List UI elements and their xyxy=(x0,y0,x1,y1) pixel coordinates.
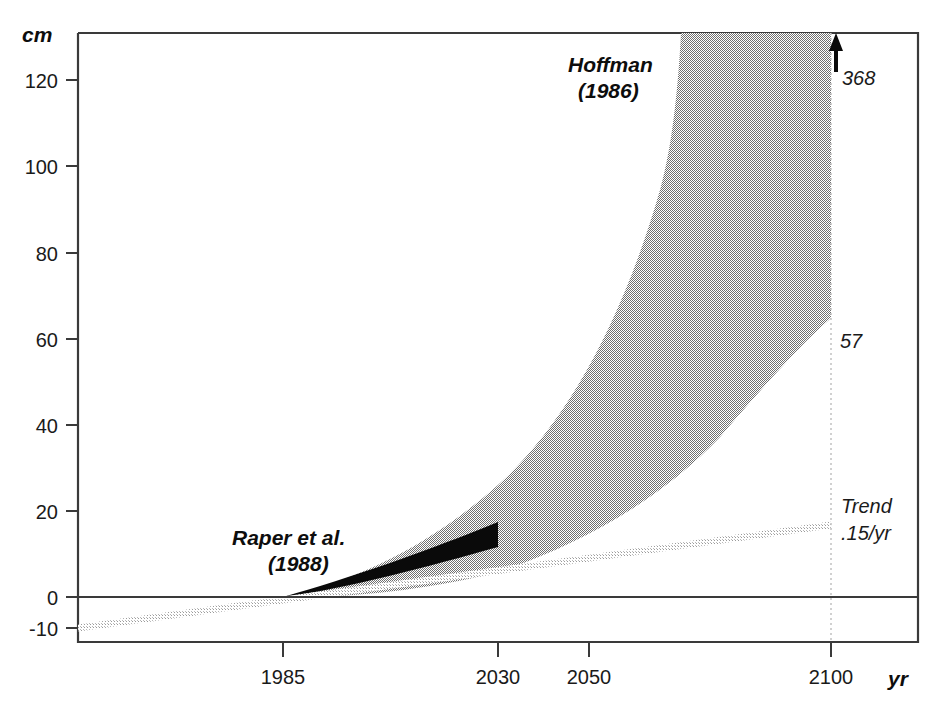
y-tick-label-neg10: -10 xyxy=(29,618,58,640)
hoffman-label-line1: Hoffman xyxy=(568,53,653,76)
y-tick-label-60: 60 xyxy=(36,329,58,351)
y-tick-label-80: 80 xyxy=(36,243,58,265)
sea-level-projection-chart: 120 100 80 60 40 20 0 -10 cm 1985 2030 2… xyxy=(0,0,940,707)
raper-label-line1: Raper et al. xyxy=(232,526,345,549)
x-axis-unit-label: yr xyxy=(887,667,910,690)
x-tick-label-2050: 2050 xyxy=(567,666,612,688)
hoffman-label-line2: (1986) xyxy=(578,79,639,102)
raper-label-line2: (1988) xyxy=(268,552,329,575)
endpoint-low-label: 57 xyxy=(840,330,863,352)
trend-label-line2: .15/yr xyxy=(841,522,892,544)
y-tick-label-120: 120 xyxy=(25,70,58,92)
x-tick-label-1985: 1985 xyxy=(261,666,306,688)
y-tick-label-100: 100 xyxy=(25,156,58,178)
y-tick-label-40: 40 xyxy=(36,415,58,437)
y-axis-unit-label: cm xyxy=(22,23,52,46)
endpoint-high-label: 368 xyxy=(842,67,875,89)
trend-label-line1: Trend xyxy=(841,495,893,517)
y-tick-label-0: 0 xyxy=(47,587,58,609)
x-tick-label-2030: 2030 xyxy=(476,666,521,688)
y-tick-label-20: 20 xyxy=(36,501,58,523)
x-tick-label-2100: 2100 xyxy=(809,666,854,688)
